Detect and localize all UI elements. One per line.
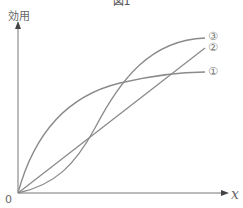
curve-3 bbox=[18, 38, 205, 193]
y-axis-label: 効用 bbox=[8, 7, 30, 23]
curve-1 bbox=[18, 72, 205, 193]
curve-2-label: ② bbox=[208, 41, 218, 54]
curve-2 bbox=[18, 48, 205, 193]
origin-label: 0 bbox=[5, 193, 12, 206]
x-axis-label: x bbox=[231, 186, 239, 202]
curve-1-label: ① bbox=[208, 65, 218, 78]
x-axis-arrow-icon bbox=[221, 190, 229, 196]
utility-diagram bbox=[0, 0, 243, 208]
